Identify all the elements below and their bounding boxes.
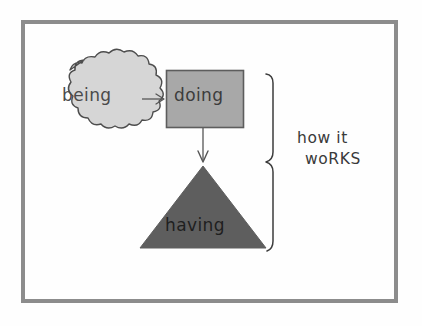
grouping-brace	[266, 74, 273, 251]
node-label-having: having	[165, 215, 225, 235]
arrow-doing-to-having	[198, 128, 208, 162]
diagram-canvas: being doing having how it woRKS	[0, 0, 422, 326]
node-label-being: being	[62, 85, 112, 105]
annotation-line-2: woRKS	[297, 149, 361, 170]
brace-annotation: how it woRKS	[297, 128, 361, 170]
triangle-shape	[140, 166, 266, 248]
node-having[interactable]	[140, 166, 266, 248]
node-label-doing: doing	[174, 85, 223, 105]
annotation-line-1: how it	[297, 129, 348, 147]
